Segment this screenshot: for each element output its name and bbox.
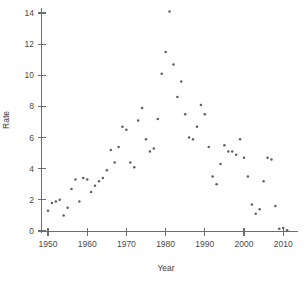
data-point xyxy=(235,153,238,156)
y-tick-label: 6 xyxy=(29,133,34,143)
y-tick-label: 12 xyxy=(25,39,35,49)
data-point xyxy=(141,107,144,110)
data-point xyxy=(62,214,65,217)
data-point xyxy=(153,147,156,150)
x-tick-label: 2010 xyxy=(274,239,293,249)
y-axis: 02468101214 xyxy=(25,8,46,236)
x-tick-label: 1980 xyxy=(156,239,175,249)
data-point xyxy=(188,136,191,139)
data-point xyxy=(192,138,195,141)
data-point xyxy=(70,188,73,191)
data-point xyxy=(117,146,120,149)
scatter-plot-figure: 02468101214 1950196019701980199020002010… xyxy=(0,0,306,281)
data-point xyxy=(219,163,222,166)
data-point xyxy=(239,138,242,141)
data-point xyxy=(274,205,277,208)
y-tick-label: 8 xyxy=(29,101,34,111)
data-point xyxy=(215,183,218,186)
data-point xyxy=(255,213,258,216)
data-point xyxy=(66,206,69,209)
data-point xyxy=(82,177,85,180)
data-point xyxy=(200,104,203,107)
x-tick-label: 1950 xyxy=(39,239,58,249)
data-point xyxy=(133,166,136,169)
data-point xyxy=(262,180,265,183)
data-point xyxy=(251,203,254,206)
data-point xyxy=(243,157,246,160)
data-point xyxy=(98,180,101,183)
data-point xyxy=(282,227,285,230)
data-point xyxy=(94,185,97,188)
data-point xyxy=(109,149,112,152)
data-point xyxy=(258,208,261,211)
x-tick-label: 1990 xyxy=(195,239,214,249)
data-point xyxy=(160,72,163,75)
plot-canvas: 02468101214 1950196019701980199020002010… xyxy=(0,0,306,281)
data-point xyxy=(223,144,226,147)
data-point xyxy=(121,125,124,128)
data-point xyxy=(106,169,109,172)
data-point xyxy=(129,161,132,164)
data-point xyxy=(78,200,81,203)
data-point xyxy=(247,175,250,178)
data-point xyxy=(90,191,93,194)
data-point xyxy=(74,178,77,181)
x-axis: 1950196019701980199020002010 xyxy=(39,228,298,250)
data-point xyxy=(125,129,128,132)
y-tick-label: 4 xyxy=(29,164,34,174)
data-points-layer xyxy=(47,10,289,231)
y-tick-label: 0 xyxy=(29,226,34,236)
x-tick-label: 2000 xyxy=(235,239,254,249)
y-axis-title: Rate xyxy=(1,111,11,129)
data-point xyxy=(168,10,171,13)
data-point xyxy=(266,157,269,160)
data-point xyxy=(270,158,273,161)
data-point xyxy=(55,200,58,203)
data-point xyxy=(286,229,289,232)
y-tick-label: 2 xyxy=(29,195,34,205)
data-point xyxy=(176,96,179,99)
data-point xyxy=(227,150,230,153)
x-axis-title: Year xyxy=(157,263,174,273)
x-tick-label: 1970 xyxy=(117,239,136,249)
data-point xyxy=(47,210,50,213)
data-point xyxy=(278,227,281,230)
data-point xyxy=(113,161,116,164)
data-point xyxy=(86,178,89,181)
data-point xyxy=(149,150,152,153)
data-point xyxy=(204,113,207,116)
data-point xyxy=(164,51,167,54)
data-point xyxy=(184,113,187,116)
data-point xyxy=(196,125,199,128)
data-point xyxy=(137,119,140,122)
data-point xyxy=(157,118,160,121)
data-point xyxy=(59,199,62,202)
data-point xyxy=(102,177,105,180)
data-point xyxy=(145,138,148,141)
data-point xyxy=(180,80,183,83)
x-tick-label: 1960 xyxy=(78,239,97,249)
data-point xyxy=(51,202,54,205)
data-point xyxy=(211,175,214,178)
y-tick-label: 14 xyxy=(25,8,35,18)
data-point xyxy=(207,146,210,149)
data-point xyxy=(231,150,234,153)
data-point xyxy=(172,63,175,66)
y-tick-label: 10 xyxy=(25,70,35,80)
